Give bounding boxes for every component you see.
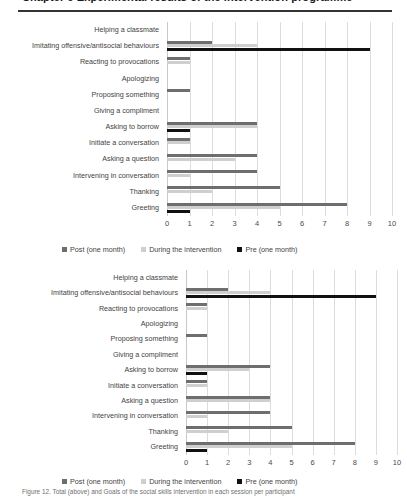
x-tick-label: 1 (205, 458, 209, 467)
category-labels-bottom: Helping a classmateImitating offensive/a… (0, 270, 182, 455)
bar-pre (167, 210, 190, 213)
chart-top: Helping a classmateImitating offensive/a… (0, 14, 407, 244)
bar-during (186, 445, 292, 448)
category-label: Helping a classmate (113, 274, 178, 282)
bar-row (186, 424, 397, 439)
bar-post (186, 426, 292, 429)
legend-top: Post (one month) During the intervention… (62, 243, 352, 255)
category-label: Initiate a conversation (89, 139, 159, 147)
x-tick-label: 7 (332, 458, 336, 467)
x-tick-label: 0 (184, 458, 188, 467)
bar-pre (167, 48, 370, 51)
bar-post (186, 365, 270, 368)
figure-page: Chapter 9 Experimental results of the in… (0, 0, 407, 498)
x-tick-label: 10 (388, 219, 396, 228)
bar-row (167, 87, 392, 103)
category-label: Thanking (148, 428, 178, 436)
bar-post (186, 334, 207, 337)
bar-during (167, 174, 190, 177)
bar-post (167, 154, 257, 157)
category-label: Helping a classmate (94, 26, 159, 34)
bar-row (167, 54, 392, 70)
bar-during (167, 61, 190, 64)
x-tick-label: 9 (374, 458, 378, 467)
x-tick-label: 9 (367, 219, 371, 228)
figure-caption: Figure 12. Total (above) and Goals of th… (0, 488, 407, 498)
legend-label-pre: Pre (one month) (245, 477, 297, 486)
bar-row (186, 363, 397, 378)
bar-post (167, 203, 347, 206)
bar-pre (186, 295, 376, 298)
bar-row (186, 393, 397, 408)
category-label: Proposing something (110, 335, 178, 343)
bar-post (186, 396, 270, 399)
bar-post (186, 442, 355, 445)
legend-swatch-during-icon (141, 247, 146, 252)
bar-post (167, 170, 257, 173)
bar-during (186, 415, 207, 418)
bar-post (186, 411, 270, 414)
x-tick-label: 4 (268, 458, 272, 467)
bar-during (186, 307, 207, 310)
category-label: Asking a question (121, 397, 178, 405)
bar-row (167, 184, 392, 200)
legend-bottom: Post (one month) During the intervention… (62, 475, 352, 487)
category-label: Intervening in conversation (92, 412, 178, 420)
category-label: Asking to borrow (124, 366, 178, 374)
figure-caption-text: Figure 12. Total (above) and Goals of th… (22, 488, 402, 495)
bar-during (186, 384, 207, 387)
x-tick-label: 3 (232, 219, 236, 228)
bar-during (167, 158, 235, 161)
x-tick-label: 3 (247, 458, 251, 467)
legend-label-during: During the intervention (149, 477, 221, 486)
category-label: Asking to borrow (105, 123, 159, 131)
legend-swatch-pre-icon (237, 479, 242, 484)
bar-row (167, 200, 392, 216)
legend-label-pre: Pre (one month) (245, 245, 297, 254)
bar-row (186, 409, 397, 424)
x-tick-label: 2 (210, 219, 214, 228)
bar-row (167, 151, 392, 167)
bar-row (167, 38, 392, 54)
category-label: Proposing something (91, 91, 159, 99)
legend-swatch-post-icon (62, 479, 67, 484)
category-label: Apologizing (122, 75, 159, 83)
legend-label-post: Post (one month) (70, 477, 125, 486)
legend-item-pre: Pre (one month) (237, 477, 297, 486)
bar-post (167, 186, 280, 189)
legend-swatch-post-icon (62, 247, 67, 252)
bar-row (167, 71, 392, 87)
legend-swatch-during-icon (141, 479, 146, 484)
bar-row (186, 316, 397, 331)
gridline (397, 270, 398, 455)
category-labels-top: Helping a classmateImitating offensive/a… (0, 22, 163, 216)
legend-item-post: Post (one month) (62, 245, 125, 254)
bar-pre (186, 372, 207, 375)
bar-during (186, 399, 270, 402)
clipped-heading-text: Chapter 9 Experimental results of the in… (22, 0, 392, 3)
bar-post (186, 303, 207, 306)
legend-swatch-pre-icon (237, 247, 242, 252)
bar-post (167, 41, 212, 44)
x-tick-label: 8 (345, 219, 349, 228)
bar-row (186, 285, 397, 300)
category-label: Giving a compliment (113, 351, 178, 359)
bar-post (167, 57, 190, 60)
bar-row (167, 119, 392, 135)
x-tick-label: 8 (353, 458, 357, 467)
bar-post (186, 288, 228, 291)
bar-row (167, 22, 392, 38)
legend-item-pre: Pre (one month) (237, 245, 297, 254)
bar-pre (186, 449, 207, 452)
x-axis-bottom: 012345678910 (186, 458, 397, 470)
category-label: Reacting to provocations (99, 305, 178, 313)
x-tick-label: 7 (322, 219, 326, 228)
x-tick-label: 10 (393, 458, 401, 467)
x-tick-label: 1 (187, 219, 191, 228)
x-tick-label: 0 (165, 219, 169, 228)
x-tick-label: 6 (311, 458, 315, 467)
category-label: Giving a compliment (94, 107, 159, 115)
x-axis-top: 012345678910 (167, 219, 392, 231)
bar-row (186, 440, 397, 455)
heading-rule (18, 10, 392, 12)
